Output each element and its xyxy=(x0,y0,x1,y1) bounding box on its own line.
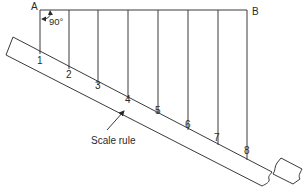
division-label-7: 7 xyxy=(214,132,220,143)
arrow-icon xyxy=(107,111,124,130)
division-label-2: 2 xyxy=(66,69,72,80)
scale-rule-diagram: A B 90° Scale rule 1 2 3 4 5 6 7 8 xyxy=(0,0,307,188)
division-label-1: 1 xyxy=(37,55,43,66)
division-label-6: 6 xyxy=(185,119,191,130)
division-label-4: 4 xyxy=(125,94,131,105)
scale-rule xyxy=(6,37,272,186)
division-label-5: 5 xyxy=(155,105,161,116)
division-label-8: 8 xyxy=(244,145,250,156)
point-b-label: B xyxy=(252,6,259,17)
point-a-label: A xyxy=(31,1,38,12)
division-label-3: 3 xyxy=(95,80,101,91)
angle-label: 90° xyxy=(49,16,64,27)
scale-rule-end-piece xyxy=(273,158,302,184)
scale-rule-label: Scale rule xyxy=(91,135,136,146)
